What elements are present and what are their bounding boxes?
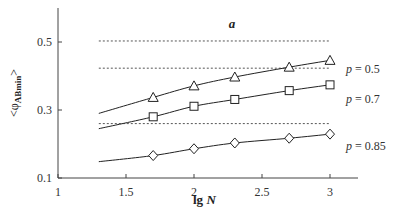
x-axis-label-var: N — [205, 192, 216, 207]
square-marker — [231, 95, 239, 103]
series-label: p = 0.5 — [345, 62, 380, 76]
diamond-marker — [190, 144, 199, 154]
diamond-marker — [149, 151, 158, 161]
fit-curve — [99, 134, 330, 162]
series-label-value: = 0.85 — [352, 139, 386, 153]
y-axis-label-open: <φ — [7, 103, 21, 117]
diamond-marker — [285, 133, 294, 143]
square-marker — [149, 113, 157, 121]
data-markers — [148, 55, 335, 160]
diamond-marker — [326, 129, 335, 139]
y-tick-label: 0.3 — [37, 103, 52, 117]
chart: 11.522.530.10.30.5 a lg N <φABmin> p = 0… — [0, 0, 404, 217]
y-axis-label: <φABmin> — [7, 69, 23, 117]
triangle-marker — [325, 55, 335, 64]
series-label-var: p — [345, 92, 352, 106]
fit-curve — [99, 85, 330, 129]
square-marker — [326, 81, 334, 89]
series-label-var: p — [345, 139, 352, 153]
y-tick-label: 0.5 — [37, 35, 52, 49]
x-tick-label: 3 — [327, 185, 333, 199]
asymptote-lines — [99, 41, 330, 124]
legend: p = 0.5p = 0.7p = 0.85 — [345, 62, 386, 153]
series-label-value: = 0.5 — [352, 62, 380, 76]
chart-title: a — [229, 16, 236, 31]
diamond-marker — [230, 138, 239, 148]
series-label-value: = 0.7 — [352, 92, 380, 106]
series-label-var: p — [345, 62, 352, 76]
y-axis-label-close: > — [7, 69, 21, 76]
x-tick-label: 2.5 — [255, 185, 270, 199]
square-marker — [190, 102, 198, 110]
square-marker — [285, 87, 293, 95]
series-label: p = 0.7 — [345, 92, 380, 106]
x-axis-label: lg N — [193, 192, 216, 207]
y-axis-label-sub: ABmin — [13, 76, 23, 104]
x-axis-label-text: lg — [193, 192, 206, 207]
series-label: p = 0.85 — [345, 139, 386, 153]
x-tick-label: 1 — [55, 185, 61, 199]
fit-curves — [99, 60, 330, 161]
y-tick-label: 0.1 — [37, 171, 52, 185]
x-tick-label: 1.5 — [119, 185, 134, 199]
